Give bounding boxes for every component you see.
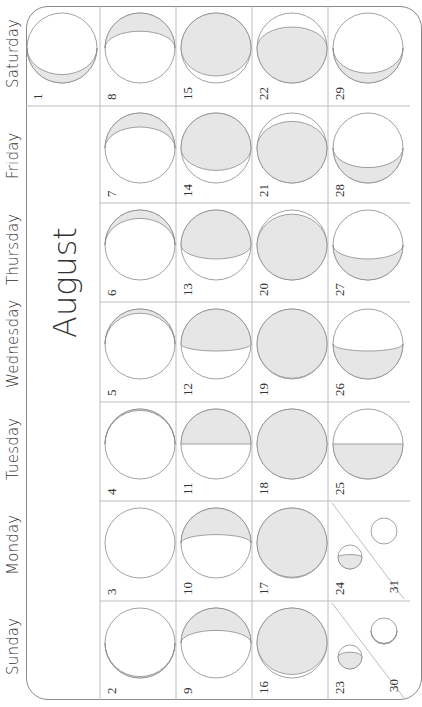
day-number: 7 [104,191,120,198]
day-number: 14 [180,184,196,197]
weekday-label-sunday: Sunday [4,617,22,674]
day-cell-17[interactable] [257,508,327,578]
day-number: 28 [332,184,348,197]
day-number: 6 [104,290,120,297]
day-number: 30 [386,679,402,692]
day-number: 27 [332,283,348,296]
day-cell-3[interactable] [105,508,175,578]
month-title: August [46,227,84,338]
day-number: 8 [104,94,120,101]
day-number: 23 [332,681,348,694]
day-cell-4[interactable] [105,409,175,479]
day-cell-18[interactable] [257,409,327,479]
day-cell-5[interactable] [105,309,175,379]
day-number: 5 [104,390,120,397]
day-cell-2[interactable] [105,608,175,678]
weekday-label-friday: Friday [4,132,22,179]
day-cell-29[interactable] [333,13,403,83]
day-number: 24 [332,582,348,595]
weekday-label-wednesday: Wednesday [4,299,22,388]
weekday-label-thursday: Thursday [4,213,22,284]
day-number: 21 [256,184,272,197]
day-cell-16[interactable] [257,608,327,678]
day-cell-25[interactable] [333,409,403,479]
day-number: 29 [332,87,348,100]
day-number: 17 [256,582,272,595]
weekday-label-tuesday: Tuesday [4,417,22,479]
day-cell-1[interactable] [27,13,97,83]
day-number: 2 [104,688,120,695]
day-cell-15[interactable] [181,13,251,83]
day-number: 19 [256,383,272,396]
day-cell-19[interactable] [257,309,327,379]
day-number: 13 [180,283,196,296]
day-number: 3 [104,589,120,596]
day-cell-12[interactable] [181,309,251,379]
day-number: 16 [256,681,272,694]
day-cell-21[interactable] [257,113,327,183]
day-number: 22 [256,87,272,100]
day-number: 20 [256,283,272,296]
day-number: 15 [180,87,196,100]
day-number: 1 [30,94,46,101]
day-cell-9[interactable] [181,608,251,678]
day-cell-27[interactable] [333,210,403,280]
day-cell-14[interactable] [181,113,251,183]
day-cell-20[interactable] [257,210,327,280]
day-cell-31[interactable] [371,518,397,544]
day-cell-30[interactable] [371,618,397,644]
day-number: 9 [180,688,196,695]
weekday-label-monday: Monday [4,515,22,575]
day-cell-28[interactable] [333,113,403,183]
day-number: 12 [180,383,196,396]
day-cell-8[interactable] [105,13,175,83]
day-cell-26[interactable] [333,309,403,379]
day-number: 4 [104,489,120,496]
day-number: 10 [180,582,196,595]
day-cell-6[interactable] [105,210,175,280]
day-number: 25 [332,482,348,495]
day-cell-22[interactable] [257,13,327,83]
weekday-label-saturday: Saturday [4,19,22,88]
day-number: 18 [256,482,272,495]
day-cell-13[interactable] [181,210,251,280]
day-cell-7[interactable] [105,113,175,183]
day-number: 31 [386,580,402,593]
day-cell-10[interactable] [181,508,251,578]
day-number: 26 [332,383,348,396]
day-cell-11[interactable] [181,409,251,479]
day-number: 11 [180,482,196,495]
